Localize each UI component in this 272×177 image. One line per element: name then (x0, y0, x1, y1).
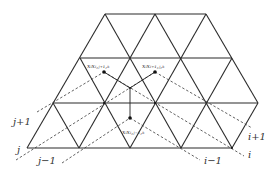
node-label-lower: xᵢxᵢ,ⱼ₋₁,ₖ (122, 129, 144, 135)
axis-label-j-plus-1: j+1 (13, 117, 31, 127)
junction-dot (129, 87, 131, 89)
axis-label-i-plus-1: i+1 (248, 132, 266, 142)
axis-label-j-minus-1: j−1 (38, 156, 56, 166)
node-connectors (104, 72, 155, 118)
node-dot-upper-right (153, 70, 157, 74)
diagonal-edges-falling (53, 14, 258, 148)
axis-label-i: i (248, 150, 251, 160)
vertex-dot (103, 102, 105, 104)
node-label-upper-left: xᵢxᵢ,ⱼ₊₁,ₖ (87, 63, 109, 69)
vertex-dot (154, 102, 156, 104)
node-label-upper-right: xᵢxᵢ₊₁,ⱼ,ₖ (142, 63, 164, 69)
axis-label-i-minus-1: i−1 (204, 156, 222, 166)
node-dot-upper-left (102, 70, 106, 74)
lattice-svg (0, 0, 272, 177)
lattice-diagram: xᵢxᵢ,ⱼ₊₁,ₖ xᵢxᵢ₊₁,ⱼ,ₖ xᵢxᵢ,ⱼ₋₁,ₖ j+1 j j… (0, 0, 272, 177)
axis-label-j: j (17, 145, 20, 155)
node-dot-lower (128, 116, 132, 120)
vertex-dot (231, 147, 233, 149)
